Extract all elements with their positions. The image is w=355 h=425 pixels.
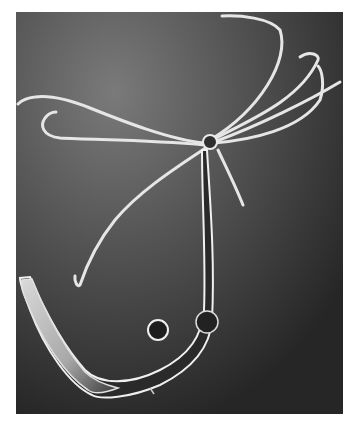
bud-left bbox=[148, 320, 168, 340]
hydra-photo bbox=[16, 12, 343, 414]
hypostome bbox=[203, 135, 217, 149]
bud-right bbox=[196, 311, 218, 333]
